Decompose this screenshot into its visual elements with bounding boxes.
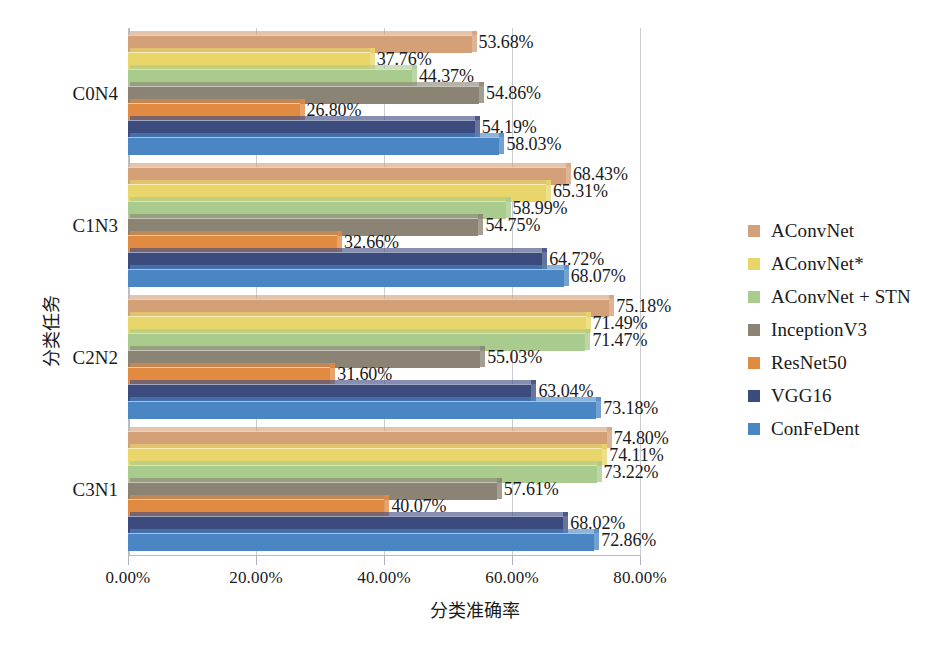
bar-side-face (597, 461, 602, 482)
legend-label: ConFeDent (771, 418, 860, 440)
bar-value-label: 40.07% (391, 496, 446, 517)
bar-face (128, 533, 594, 551)
legend-item-resnet50[interactable]: ResNet50 (748, 346, 911, 379)
bar-value-label: 68.07% (571, 266, 626, 287)
bar-value-label: 54.86% (486, 83, 541, 104)
bar-side-face (497, 478, 502, 499)
legend-item-aconvnet[interactable]: AConvNet (748, 214, 911, 247)
legend-label: AConvNet (771, 220, 854, 242)
bar-side-face (585, 329, 590, 350)
bar-side-face (596, 397, 601, 418)
bar-value-label: 54.75% (485, 215, 540, 236)
bar-value-label: 53.68% (479, 32, 534, 53)
bar-side-face (478, 214, 483, 235)
legend-label: ResNet50 (771, 352, 847, 374)
legend-label: AConvNet + STN (771, 286, 911, 308)
legend-item-inceptionv3[interactable]: InceptionV3 (748, 313, 911, 346)
legend-item-vgg16[interactable]: VGG16 (748, 379, 911, 412)
plot-area (128, 28, 640, 556)
legend-swatch-icon (748, 258, 760, 270)
x-tick-label: 60.00% (485, 568, 539, 588)
bar-value-label: 73.18% (603, 398, 658, 419)
bar-face (128, 137, 499, 155)
legend-swatch-icon (748, 291, 760, 303)
x-tick-mark (512, 556, 513, 565)
bar-value-label: 55.03% (487, 347, 542, 368)
category-label-c3n1: C3N1 (0, 479, 118, 501)
legend-item-confedent[interactable]: ConFeDent (748, 412, 911, 445)
bar[interactable] (128, 533, 594, 550)
bar-value-label: 31.60% (337, 364, 392, 385)
bar[interactable] (128, 401, 596, 418)
bar-side-face (479, 82, 484, 103)
legend-swatch-icon (748, 390, 760, 402)
legend-swatch-icon (748, 225, 760, 237)
x-tick-mark (256, 556, 257, 565)
x-tick-label: 80.00% (613, 568, 667, 588)
legend: AConvNetAConvNet*AConvNet + STNInception… (748, 214, 911, 445)
legend-swatch-icon (748, 324, 760, 336)
category-label-c0n4: C0N4 (0, 83, 118, 105)
bar-value-label: 73.22% (604, 462, 659, 483)
legend-label: AConvNet* (771, 253, 864, 275)
legend-item-aconvnet-stn[interactable]: AConvNet + STN (748, 280, 911, 313)
bar-side-face (480, 346, 485, 367)
bar-face (128, 269, 564, 287)
x-tick-label: 20.00% (229, 568, 283, 588)
bar-value-label: 44.37% (419, 66, 474, 87)
bar-value-label: 72.86% (601, 530, 656, 551)
x-tick-label: 40.00% (357, 568, 411, 588)
category-label-c2n2: C2N2 (0, 347, 118, 369)
bar-side-face (472, 31, 477, 52)
legend-swatch-icon (748, 357, 760, 369)
legend-item-aconvnet[interactable]: AConvNet* (748, 247, 911, 280)
bar-value-label: 71.47% (592, 330, 647, 351)
x-tick-mark (128, 556, 129, 565)
bar-face (128, 401, 596, 419)
x-tick-mark (640, 556, 641, 565)
legend-label: VGG16 (771, 385, 832, 407)
x-tick-label: 0.00% (106, 568, 151, 588)
category-label-c1n3: C1N3 (0, 215, 118, 237)
bar-value-label: 57.61% (504, 479, 559, 500)
bar-chart: 分类任务 C0N4C1N3C2N2C3N1 53.68%37.76%44.37%… (0, 0, 950, 661)
legend-label: InceptionV3 (771, 319, 867, 341)
bar[interactable] (128, 269, 564, 286)
bar-value-label: 26.80% (307, 100, 362, 121)
bar[interactable] (128, 137, 499, 154)
bar-value-label: 63.04% (538, 381, 593, 402)
x-axis-title: 分类准确率 (0, 596, 950, 622)
x-tick-mark (384, 556, 385, 565)
bar-value-label: 32.66% (344, 232, 399, 253)
bar-value-label: 58.03% (506, 134, 561, 155)
legend-swatch-icon (748, 423, 760, 435)
